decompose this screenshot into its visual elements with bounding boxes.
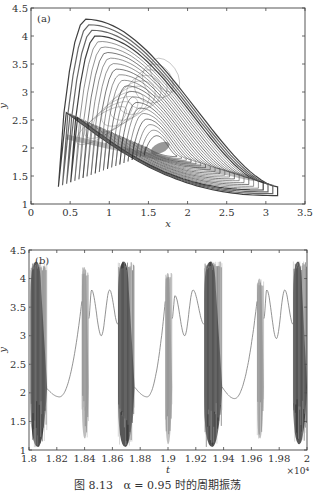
x-axis-multiplier: ×10⁴ bbox=[286, 466, 309, 476]
x-tick-label: 1.92 bbox=[185, 453, 207, 464]
x-axis-label: t bbox=[166, 464, 171, 475]
x-tick-label: 0 bbox=[28, 207, 34, 218]
figure-caption: 图 8.13 α = 0.95 时的周期振荡 bbox=[0, 476, 315, 492]
x-tick-label: 1.98 bbox=[268, 453, 290, 464]
x-tick-label: 2 bbox=[184, 207, 190, 218]
x-tick-label: 1 bbox=[106, 207, 112, 218]
caption-text: α = 0.95 时的周期振荡 bbox=[123, 479, 241, 492]
x-tick-label: 1.9 bbox=[160, 453, 176, 464]
y-tick-label: 1.5 bbox=[10, 416, 26, 427]
figure-canvas: 00.511.522.533.511.522.533.544.5xy(a) 1.… bbox=[0, 0, 315, 480]
x-tick-label: 1.86 bbox=[101, 453, 123, 464]
figure: 00.511.522.533.511.522.533.544.5xy(a) 1.… bbox=[0, 0, 315, 497]
y-tick-label: 4 bbox=[22, 31, 28, 42]
x-tick-label: 2 bbox=[304, 453, 310, 464]
slow-segment bbox=[89, 290, 118, 336]
caption-figure-label: 图 8.13 bbox=[74, 479, 113, 492]
y-tick-label: 2.5 bbox=[12, 115, 28, 126]
y-tick-label: 4.5 bbox=[10, 245, 26, 256]
x-tick-label: 1.88 bbox=[129, 453, 151, 464]
y-tick-label: 1.5 bbox=[12, 171, 28, 182]
slow-segment bbox=[46, 301, 82, 397]
slow-segment bbox=[135, 301, 166, 397]
x-tick-label: 1.5 bbox=[140, 207, 156, 218]
panel-label: (a) bbox=[37, 13, 51, 24]
y-tick-label: 2 bbox=[20, 387, 26, 398]
x-tick-label: 2.5 bbox=[219, 207, 235, 218]
slow-segment bbox=[172, 290, 204, 336]
y-axis-label: y bbox=[0, 103, 8, 110]
y-tick-label: 3 bbox=[22, 87, 28, 98]
slow-segment bbox=[264, 290, 293, 339]
y-tick-label: 3 bbox=[20, 330, 26, 341]
y-tick-label: 3.5 bbox=[12, 59, 28, 70]
panel-a-phase-portrait: 00.511.522.533.511.522.533.544.5xy(a) bbox=[0, 3, 313, 230]
slow-segment bbox=[222, 301, 257, 398]
y-axis-label: y bbox=[0, 347, 8, 354]
phase-trajectory bbox=[58, 19, 277, 195]
y-tick-label: 4 bbox=[20, 273, 26, 284]
y-tick-label: 2.5 bbox=[10, 359, 26, 370]
panel-b-time-series: 1.81.821.841.861.881.91.921.941.961.9821… bbox=[0, 245, 310, 477]
x-tick-label: 1.96 bbox=[240, 453, 262, 464]
x-tick-label: 1.82 bbox=[46, 453, 68, 464]
x-tick-label: 0.5 bbox=[62, 207, 78, 218]
x-tick-label: 3.5 bbox=[297, 207, 313, 218]
y-tick-label: 1 bbox=[20, 445, 26, 456]
x-tick-label: 1.94 bbox=[212, 453, 234, 464]
y-tick-label: 4.5 bbox=[12, 3, 28, 14]
y-tick-label: 1 bbox=[22, 199, 28, 210]
x-tick-label: 1.84 bbox=[73, 453, 95, 464]
x-axis-label: x bbox=[165, 218, 171, 229]
time-series-trace bbox=[30, 261, 307, 447]
x-tick-label: 3 bbox=[263, 207, 269, 218]
y-tick-label: 2 bbox=[22, 143, 28, 154]
y-tick-label: 3.5 bbox=[10, 302, 26, 313]
